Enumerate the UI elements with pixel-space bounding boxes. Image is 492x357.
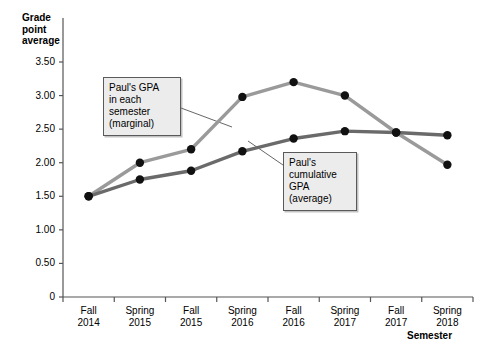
axis-group: [59, 18, 473, 302]
gpa-line-chart: Grade point average Semester 00.501.001.…: [0, 0, 492, 357]
y-tick-label: 0: [21, 292, 55, 302]
y-tick-label: 2.00: [21, 158, 55, 168]
annotation-cumulative-gpa: Paul's cumulative GPA (average): [283, 152, 357, 211]
y-tick-label: 1.50: [21, 191, 55, 201]
y-tick-label: 0.50: [21, 258, 55, 268]
plot-area: [0, 0, 492, 357]
y-tick-label: 1.00: [21, 225, 55, 235]
annotation-marginal-gpa: Paul's GPA in each semester (marginal): [103, 77, 181, 136]
y-tick-label: 3.00: [21, 91, 55, 101]
y-tick-label: 3.50: [21, 57, 55, 67]
x-tick-label: Spring 2018: [417, 305, 477, 328]
y-tick-label: 2.50: [21, 124, 55, 134]
